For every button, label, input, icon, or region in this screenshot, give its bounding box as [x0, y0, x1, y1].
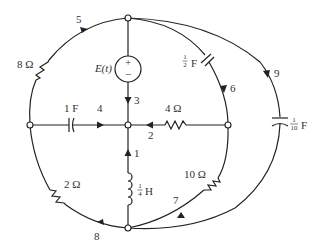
svg-text:2 Ω: 2 Ω: [64, 178, 80, 190]
node-center: [125, 122, 131, 128]
arrow-left-icon: [146, 122, 153, 129]
svg-text:1: 1: [183, 53, 187, 61]
branch-8-resistor: 2 Ω 8: [30, 125, 128, 242]
svg-text:2: 2: [148, 129, 154, 141]
svg-text:F: F: [301, 119, 307, 131]
arrow-left-icon: [97, 219, 104, 225]
branch-4-capacitor: 1 F 4: [30, 102, 128, 132]
arrow-up-icon: [125, 149, 132, 156]
svg-text:10: 10: [291, 124, 299, 132]
svg-text:1: 1: [292, 116, 296, 124]
node-top: [125, 15, 131, 21]
circuit-diagram: + − E(t) 3 1 F 4 4 Ω 2 1 1 4 H: [0, 0, 321, 245]
svg-text:10 Ω: 10 Ω: [184, 168, 206, 180]
svg-text:F: F: [191, 57, 197, 69]
svg-text:2: 2: [183, 61, 187, 69]
svg-text:E(t): E(t): [94, 62, 112, 75]
arrow-down-left-icon: [177, 212, 185, 218]
branch-9-capacitor: 9 1 10 F: [128, 18, 307, 229]
svg-text:−: −: [125, 68, 131, 80]
svg-text:3: 3: [134, 94, 140, 106]
svg-text:7: 7: [173, 194, 179, 206]
node-left: [27, 122, 33, 128]
svg-text:+: +: [125, 56, 131, 68]
branch-6-capacitor: 1 2 F 6: [128, 18, 236, 125]
svg-text:1: 1: [134, 147, 140, 159]
branch-7-resistor: 10 Ω 7: [128, 125, 228, 228]
arrow-down-icon: [125, 97, 132, 104]
svg-text:4: 4: [97, 102, 103, 114]
svg-text:1: 1: [138, 182, 142, 190]
svg-text:8 Ω: 8 Ω: [17, 58, 33, 70]
node-bottom: [125, 225, 131, 231]
svg-text:9: 9: [274, 67, 280, 79]
svg-text:6: 6: [230, 82, 236, 94]
svg-text:1 F: 1 F: [64, 102, 78, 114]
svg-text:H: H: [145, 185, 153, 197]
svg-text:5: 5: [76, 13, 82, 25]
svg-text:4 Ω: 4 Ω: [165, 102, 181, 114]
branch-2-resistor: 4 Ω 2: [128, 102, 228, 141]
svg-text:4: 4: [138, 190, 142, 198]
node-right: [225, 122, 231, 128]
svg-text:8: 8: [94, 230, 100, 242]
arrow-right-icon: [97, 122, 104, 129]
